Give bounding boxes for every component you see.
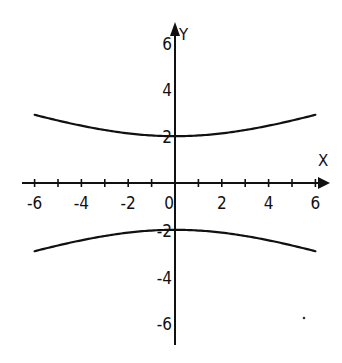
x-tick-label: 0 [164,193,174,213]
axes: X Y [22,22,330,345]
stray-mark [303,317,306,320]
x-tick-labels: -6-4-20246 [27,193,320,213]
y-tick-label: 4 [162,80,172,100]
x-tick-label: 4 [264,193,274,213]
x-tick-label: -2 [121,193,136,213]
x-tick-label: 6 [311,193,321,213]
x-axis-arrowhead-icon [318,177,330,189]
y-tick-label: 6 [162,34,172,54]
y-axis-label: Y [178,26,189,44]
x-tick-label: -4 [74,193,89,213]
hyperbola-chart: X Y -6-4-20246 642-2-4-6 [0,0,342,363]
x-axis-label: X [318,152,328,170]
x-tick-label: 2 [217,193,227,213]
y-tick-label: -6 [157,314,172,334]
x-tick-label: -6 [27,193,42,213]
y-tick-label: -4 [157,268,172,288]
